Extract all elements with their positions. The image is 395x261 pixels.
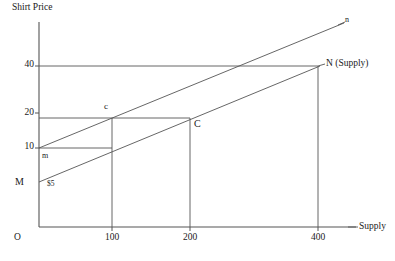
horizontal-reference-lines: [39, 66, 318, 148]
supply-curves: [39, 23, 344, 182]
supply-chart: Shirt Price 40 20 10 100 200 400 O Suppl…: [0, 0, 395, 261]
curve-label-n: n: [345, 16, 349, 24]
y-tick-label-40: 40: [8, 60, 34, 70]
curve-N-supply-line: [39, 66, 320, 182]
price-tag-label: $5: [47, 180, 55, 188]
leader-lines: [318, 22, 358, 227]
point-label-m: m: [42, 152, 48, 160]
point-label-M: M: [15, 177, 24, 187]
curve-n-line: [39, 23, 344, 148]
x-tick-label-100: 100: [97, 233, 127, 243]
tick-marks: [35, 66, 318, 231]
x-tick-label-400: 400: [303, 233, 333, 243]
y-tick-label-20: 20: [8, 108, 34, 118]
N-leader: [318, 64, 325, 66]
origin-label: O: [14, 233, 21, 243]
curve-label-n-supply: N (Supply): [326, 59, 369, 69]
point-label-c: c: [104, 102, 108, 111]
y-tick-label-10: 10: [8, 142, 34, 152]
point-label-C: C: [194, 119, 201, 129]
chart-canvas: [0, 0, 395, 261]
vertical-reference-lines: [112, 66, 318, 227]
y-axis-title: Shirt Price: [12, 3, 52, 13]
x-axis-title: Supply: [359, 222, 386, 232]
x-tick-label-200: 200: [175, 233, 205, 243]
